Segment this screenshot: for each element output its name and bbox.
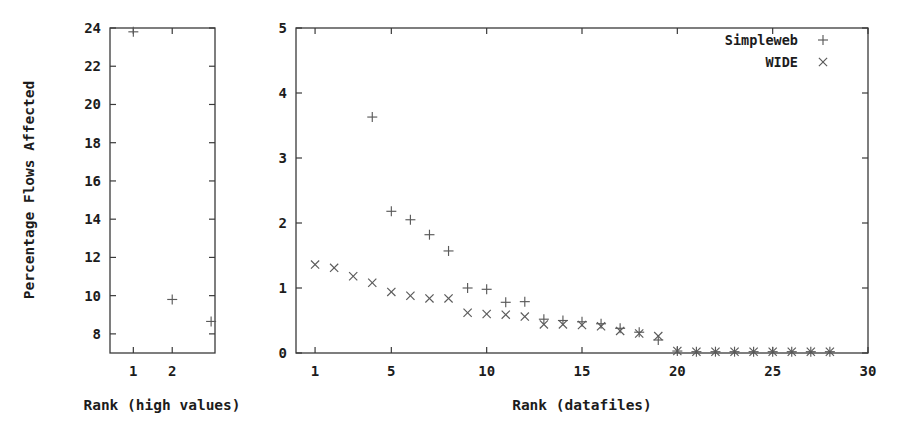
x-tick-label: 25 <box>764 363 781 379</box>
marker-plus <box>596 319 606 329</box>
series-simpleweb <box>128 27 216 327</box>
marker-cross <box>819 58 827 66</box>
x-tick-label: 2 <box>168 363 176 379</box>
marker-cross <box>387 288 395 296</box>
series-simpleweb <box>367 112 835 357</box>
marker-cross <box>311 261 319 269</box>
left-panel: 81012141618202224 12 Rank (high values) … <box>21 20 241 413</box>
y-tick-label: 14 <box>84 211 101 227</box>
marker-cross <box>368 279 376 287</box>
marker-cross <box>464 309 472 317</box>
marker-plus <box>424 230 434 240</box>
y-tick-label: 22 <box>84 58 101 74</box>
legend-label-wide: WIDE <box>765 54 798 70</box>
y-tick-label: 12 <box>84 249 101 265</box>
legend-label-simpleweb: Simpleweb <box>725 32 798 48</box>
legend: Simpleweb WIDE <box>725 32 828 70</box>
x-tick-label: 1 <box>311 363 319 379</box>
x-tick-label: 30 <box>860 363 877 379</box>
right-data-points <box>311 112 835 357</box>
y-tick-label: 16 <box>84 173 101 189</box>
marker-plus <box>520 297 530 307</box>
marker-plus <box>463 283 473 293</box>
right-y-axis-ticks: 012345 <box>279 20 868 361</box>
y-tick-label: 4 <box>279 85 287 101</box>
y-tick-label: 0 <box>279 345 287 361</box>
right-x-axis-ticks: 151015202530 <box>311 28 877 379</box>
y-tick-label: 18 <box>84 135 101 151</box>
marker-cross <box>349 272 357 280</box>
y-tick-label: 10 <box>84 288 101 304</box>
left-y-axis-title: Percentage Flows Affected <box>21 81 37 299</box>
x-tick-label: 1 <box>129 363 137 379</box>
x-tick-label: 20 <box>669 363 686 379</box>
marker-plus <box>386 206 396 216</box>
marker-cross <box>425 294 433 302</box>
marker-cross <box>502 311 510 319</box>
left-plot-frame <box>110 28 215 353</box>
x-tick-label: 10 <box>478 363 495 379</box>
marker-cross <box>483 310 491 318</box>
marker-plus <box>167 294 177 304</box>
y-tick-label: 24 <box>84 20 101 36</box>
y-tick-label: 3 <box>279 150 287 166</box>
series-wide <box>311 261 834 356</box>
marker-plus <box>367 112 377 122</box>
x-tick-label: 15 <box>574 363 591 379</box>
chart-figure: 81012141618202224 12 Rank (high values) … <box>0 0 915 430</box>
legend-marker-plus-icon <box>818 35 828 45</box>
left-y-axis-ticks: 81012141618202224 <box>84 20 215 342</box>
right-x-axis-title: Rank (datafiles) <box>512 397 652 413</box>
marker-plus <box>539 314 549 324</box>
marker-cross <box>444 294 452 302</box>
y-tick-label: 2 <box>279 215 287 231</box>
figure-canvas: 81012141618202224 12 Rank (high values) … <box>0 0 915 430</box>
marker-plus <box>405 215 415 225</box>
left-x-axis-ticks: 12 <box>129 28 176 379</box>
y-tick-label: 8 <box>93 326 101 342</box>
legend-marker-cross-icon <box>819 58 827 66</box>
right-panel: 012345 151015202530 Rank (datafiles) Sim… <box>279 20 877 413</box>
marker-cross <box>406 292 414 300</box>
marker-plus <box>444 246 454 256</box>
marker-plus <box>615 323 625 333</box>
y-tick-label: 1 <box>279 280 287 296</box>
marker-plus <box>501 297 511 307</box>
marker-cross <box>330 264 338 272</box>
left-x-axis-title: Rank (high values) <box>83 397 240 413</box>
right-plot-frame <box>296 28 868 353</box>
marker-cross <box>521 313 529 321</box>
x-tick-label: 5 <box>387 363 395 379</box>
y-tick-label: 20 <box>84 96 101 112</box>
marker-plus <box>482 284 492 294</box>
marker-plus <box>818 35 828 45</box>
left-data-points <box>128 27 216 327</box>
y-tick-label: 5 <box>279 20 287 36</box>
marker-plus <box>634 327 644 337</box>
